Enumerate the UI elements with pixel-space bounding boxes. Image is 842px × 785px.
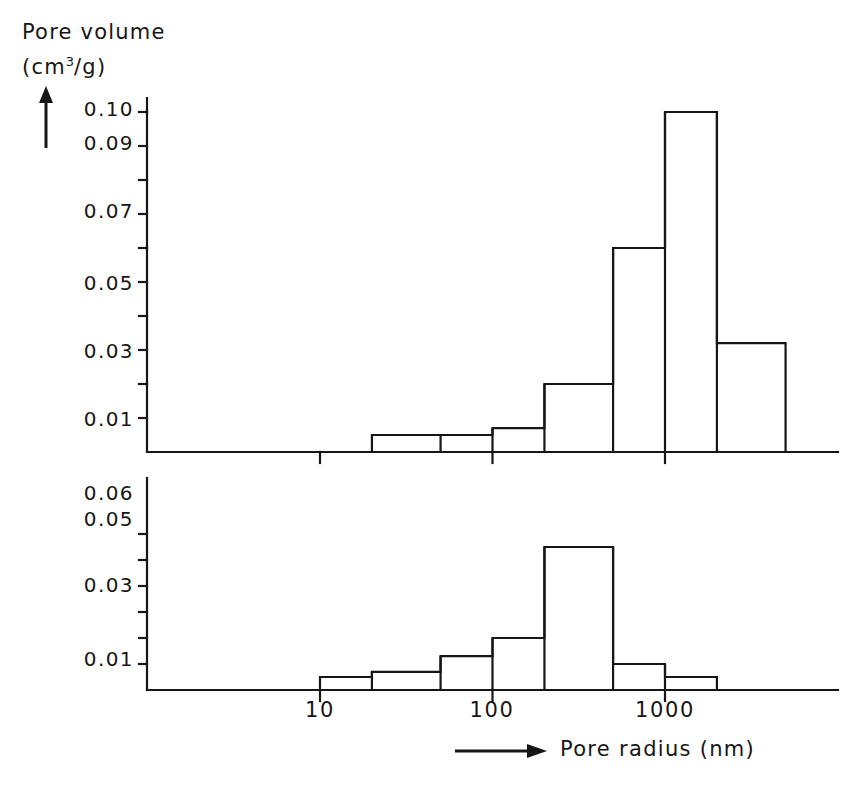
y-tick-label-bottom-2: 0.03 xyxy=(42,573,134,597)
y-tick-label-bottom-3: 0.01 xyxy=(42,647,134,671)
y-tick-label-top-4: 0.03 xyxy=(42,339,134,363)
x-tick-label-100: 100 xyxy=(470,698,515,722)
pore-volume-distribution-figure: Pore volume (cm3/g) Pore radius (nm) 0.1… xyxy=(0,0,842,785)
y-tick-label-top-0: 0.10 xyxy=(42,97,134,121)
y-axis-title-line1: Pore volume xyxy=(22,20,166,44)
x-axis-arrow-icon xyxy=(455,744,547,758)
y-tick-label-top-3: 0.05 xyxy=(42,271,134,295)
axes-group xyxy=(139,98,838,701)
y-tick-label-bottom-1: 0.05 xyxy=(42,507,134,531)
y-tick-label-bottom-0: 0.06 xyxy=(42,481,134,505)
y-axis-title: Pore volume (cm3/g) xyxy=(22,18,166,82)
x-tick-label-10: 10 xyxy=(305,698,335,722)
y-tick-label-top-5: 0.01 xyxy=(42,407,134,431)
y-tick-label-top-1: 0.09 xyxy=(42,131,134,155)
y-tick-label-top-2: 0.07 xyxy=(42,199,134,223)
top-panel-bars xyxy=(372,112,786,452)
x-axis-title: Pore radius (nm) xyxy=(560,737,755,761)
y-axis-title-line2: (cm3/g) xyxy=(22,47,166,82)
bottom-panel-bars xyxy=(320,547,717,690)
x-tick-label-1000: 1000 xyxy=(635,698,695,722)
y-axis-title-unit-suffix: /g) xyxy=(74,55,106,79)
y-axis-title-superscript: 3 xyxy=(66,54,74,69)
y-axis-title-unit-prefix: (cm xyxy=(22,55,66,79)
